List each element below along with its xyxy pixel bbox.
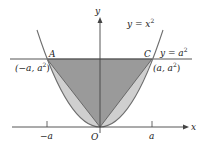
point-A-coords: (−a, a2) — [15, 61, 50, 73]
parabola-label: y = x2 — [126, 17, 154, 29]
point-C-label: C — [144, 49, 151, 59]
point-C-coords: (a, a2) — [153, 61, 180, 73]
tick-pos-a-label: a — [149, 131, 154, 141]
x-axis-arrow-icon — [183, 125, 189, 130]
y-axis-arrow-icon — [98, 17, 103, 23]
point-A-label: A — [48, 49, 56, 59]
y-axis-label: y — [94, 6, 101, 16]
x-axis-label: x — [191, 122, 196, 132]
origin-label: O — [91, 132, 99, 142]
parabola-diagram: y x O −a a y = x2 y = a2 A (−a, a2) C (a… — [0, 0, 201, 147]
line-label: y = a2 — [159, 46, 188, 58]
tick-neg-a-label: −a — [40, 131, 53, 141]
